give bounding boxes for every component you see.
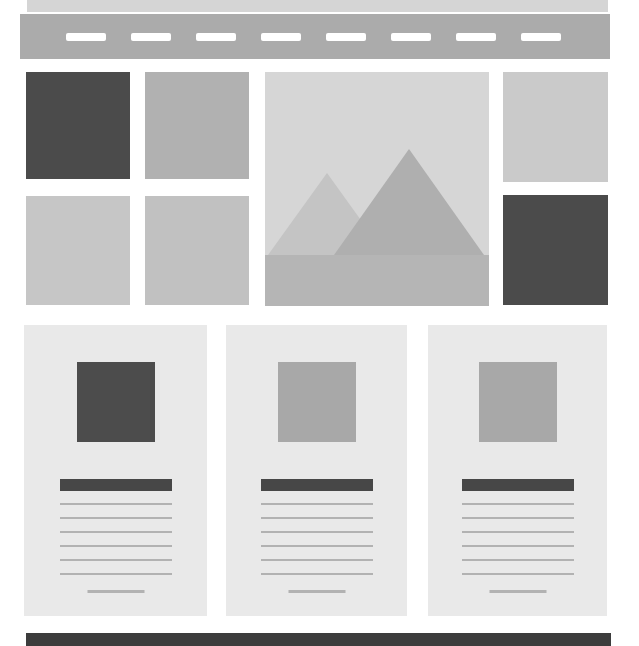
card-2 (226, 325, 407, 616)
card-3 (428, 325, 607, 616)
nav-menu-item[interactable] (456, 33, 496, 41)
top-strip (27, 0, 608, 12)
text-line-placeholder (462, 517, 574, 519)
card-3-thumbnail[interactable] (479, 362, 557, 442)
card-3-title-placeholder (462, 479, 574, 491)
card-1-title-placeholder (60, 479, 172, 491)
grid-tile-bottom-second[interactable] (145, 196, 249, 305)
card-2-thumbnail[interactable] (278, 362, 356, 442)
grid-tile-top-second[interactable] (145, 72, 249, 179)
text-line-placeholder (60, 545, 172, 547)
card-1-read-more-link[interactable] (87, 590, 144, 593)
card-1-text-block (60, 503, 172, 575)
nav-menu-item[interactable] (391, 33, 431, 41)
card-2-text-block (261, 503, 373, 575)
text-line-placeholder (462, 503, 574, 505)
footer-bar (26, 633, 611, 646)
card-2-read-more-link[interactable] (288, 590, 345, 593)
nav-menu-item[interactable] (196, 33, 236, 41)
nav-menu-item[interactable] (261, 33, 301, 41)
image-ground-strip (265, 255, 489, 306)
wireframe-page (0, 0, 639, 646)
text-line-placeholder (60, 559, 172, 561)
card-3-text-block (462, 503, 574, 575)
text-line-placeholder (60, 503, 172, 505)
nav-menu-item[interactable] (521, 33, 561, 41)
hero-image-placeholder[interactable] (265, 72, 489, 306)
text-line-placeholder (462, 545, 574, 547)
nav-menu-item[interactable] (326, 33, 366, 41)
text-line-placeholder (261, 559, 373, 561)
text-line-placeholder (60, 573, 172, 575)
text-line-placeholder (261, 531, 373, 533)
text-line-placeholder (261, 503, 373, 505)
text-line-placeholder (261, 573, 373, 575)
grid-tile-top-right[interactable] (503, 72, 608, 182)
nav-bar (20, 14, 610, 59)
card-1 (24, 325, 207, 616)
text-line-placeholder (261, 517, 373, 519)
card-2-title-placeholder (261, 479, 373, 491)
text-line-placeholder (462, 531, 574, 533)
grid-tile-bottom-right[interactable] (503, 195, 608, 305)
text-line-placeholder (261, 545, 373, 547)
text-line-placeholder (462, 573, 574, 575)
text-line-placeholder (462, 559, 574, 561)
mountain-large-icon (334, 149, 484, 255)
grid-tile-top-left[interactable] (26, 72, 130, 179)
card-3-read-more-link[interactable] (489, 590, 546, 593)
text-line-placeholder (60, 531, 172, 533)
grid-tile-bottom-left[interactable] (26, 196, 130, 305)
nav-menu-item[interactable] (66, 33, 106, 41)
card-1-thumbnail[interactable] (77, 362, 155, 442)
nav-menu-item[interactable] (131, 33, 171, 41)
text-line-placeholder (60, 517, 172, 519)
